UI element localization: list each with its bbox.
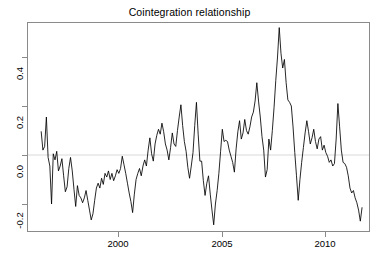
y-axis-label-0.2: 0.2 xyxy=(14,106,25,140)
y-axis-label--0.2: -0.2 xyxy=(14,204,25,238)
plot-area xyxy=(27,22,370,232)
series-plot xyxy=(28,23,369,231)
x-axis-label-2005: 2005 xyxy=(202,238,242,249)
figure-root: Cointegration relationship 0.4 0.2 0.0 -… xyxy=(0,0,379,263)
page-title: Cointegration relationship xyxy=(0,6,379,18)
x-tick-mark-2000 xyxy=(118,232,119,237)
data-line-cointegration-residual xyxy=(41,28,362,225)
x-axis-label-2010: 2010 xyxy=(305,238,345,249)
y-axis-label-0.0: 0.0 xyxy=(14,155,25,189)
x-axis-label-2000: 2000 xyxy=(98,238,138,249)
y-axis-label-0.4: 0.4 xyxy=(14,57,25,91)
x-tick-mark-2005 xyxy=(222,232,223,237)
x-tick-mark-2010 xyxy=(325,232,326,237)
